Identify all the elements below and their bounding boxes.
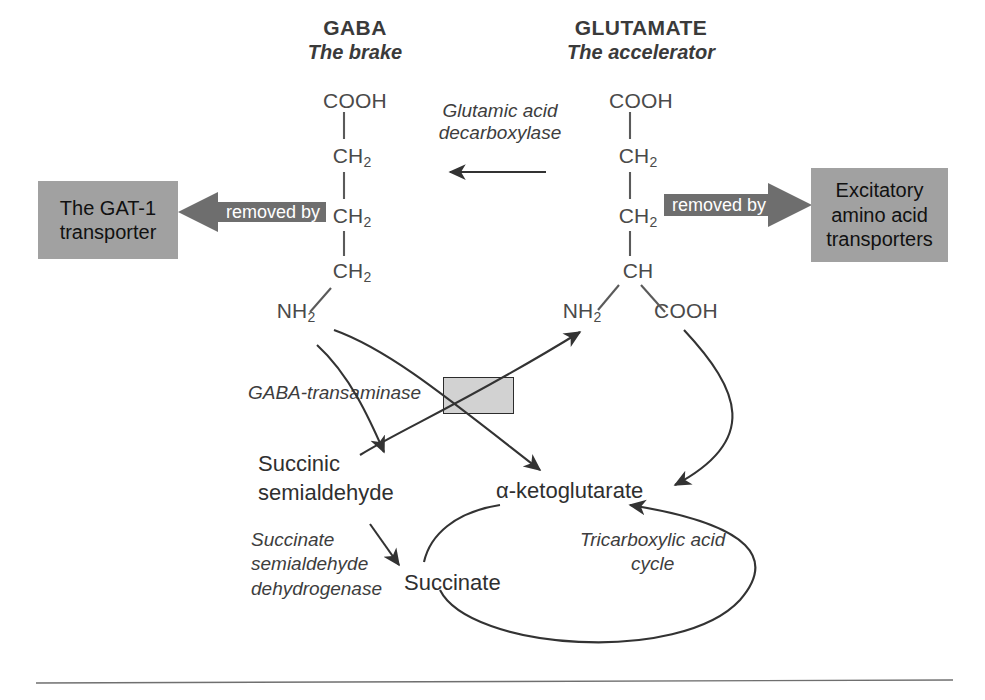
gat1-removed-by-label: removed by (226, 203, 320, 221)
ketoglutarate-to-succinate-line (424, 505, 500, 562)
tricarboxylic-acid-cycle-label: Tricarboxylic acid cycle (580, 528, 725, 577)
eaat-removed-by-label: removed by (672, 196, 766, 214)
succinate-label: Succinate (404, 570, 501, 595)
gat1-removed-by-arrow: removed by (178, 192, 326, 232)
succinic-semialdehyde-label: Succinic semialdehyde (258, 450, 394, 507)
gaba-c1-label: COOH (323, 89, 387, 113)
gat1-transporter-box: The GAT-1 transporter (38, 181, 178, 259)
glutamate-c1-label: COOH (609, 89, 673, 113)
footer-divider (36, 680, 953, 683)
gaba-amine-label: NH2 (277, 299, 316, 325)
gaba-c4-label: CH2 (333, 259, 372, 285)
gaba-subtitle: The brake (308, 41, 402, 64)
glutamate-c4-label: CH (623, 259, 654, 283)
gaba-c3-label: CH2 (333, 204, 372, 230)
glutamate-subtitle: The accelerator (567, 41, 715, 64)
gaba-c2-label: CH2 (333, 144, 372, 170)
diagram-canvas: GABA The brake GLUTAMATE The accelerator… (0, 0, 985, 700)
ssadh-label: Succinate semialdehyde dehydrogenase (251, 528, 382, 601)
alpha-ketoglutarate-label: α-ketoglutarate (496, 478, 643, 503)
glutamate-c3-label: CH2 (619, 204, 658, 230)
glutamate-amine-label: NH2 (563, 299, 602, 325)
gaba-transaminase-crossing-box (443, 377, 514, 414)
glutamate-title: GLUTAMATE (575, 16, 707, 40)
glutamic-acid-decarboxylase-label: Glutamic acid decarboxylase (439, 100, 562, 144)
glutamate-acid-label: COOH (654, 299, 718, 323)
gaba-transaminase-label: GABA-transaminase (248, 382, 421, 404)
gat1-transporter-label: The GAT-1 transporter (60, 196, 157, 245)
eaat-transporter-box: Excitatory amino acid transporters (811, 168, 948, 262)
gaba-title: GABA (323, 16, 386, 40)
glutamate-c2-label: CH2 (619, 144, 658, 170)
eaat-transporter-label: Excitatory amino acid transporters (826, 178, 933, 251)
glutamate-to-ketoglutarate-curve (675, 330, 732, 485)
eaat-removed-by-arrow: removed by (664, 183, 812, 227)
